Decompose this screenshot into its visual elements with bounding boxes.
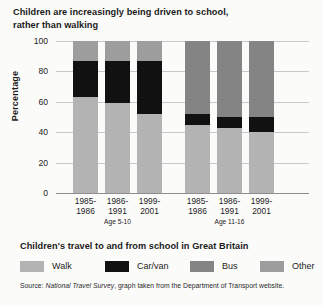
legend-label: Car/van xyxy=(137,261,169,271)
x-label-line-2: 2001 xyxy=(127,206,173,216)
x-axis-line xyxy=(56,193,309,194)
bar-segment-walk xyxy=(185,125,210,193)
plot-canvas: 020406080100 xyxy=(56,41,309,193)
chart-page: Children are increasingly being driven t… xyxy=(0,0,323,306)
bar-segment-car-van xyxy=(185,114,210,125)
page-title: Children are increasingly being driven t… xyxy=(13,6,313,31)
legend-swatch-bus xyxy=(190,261,214,272)
y-axis-tick-label: 40 xyxy=(8,128,48,137)
legend-item-walk[interactable]: Walk xyxy=(20,259,72,273)
legend-label: Walk xyxy=(52,261,72,271)
legend-heading: Children's travel to and from school in … xyxy=(20,241,248,251)
bar-segment-other xyxy=(137,41,162,61)
legend-swatch-other xyxy=(260,261,284,272)
x-axis-tick-label: 1999-2001 xyxy=(239,196,285,216)
legend-swatch-walk xyxy=(20,261,44,272)
bar-segment-car-van xyxy=(217,117,242,128)
bar-2 xyxy=(105,41,130,193)
bar-6 xyxy=(249,41,274,193)
bar-segment-other xyxy=(105,41,130,61)
bar-segment-walk xyxy=(73,97,98,193)
x-axis-tick-label: 1999-2001 xyxy=(127,196,173,216)
legend-item-other[interactable]: Other xyxy=(260,259,315,273)
bar-segment-car-van xyxy=(137,61,162,114)
bar-segment-walk xyxy=(105,103,130,193)
x-axis-labels: 1985-19861986-19911999-2001Age 5-101985-… xyxy=(56,196,309,236)
page-title-line-2: rather than walking xyxy=(13,19,313,32)
bar-4 xyxy=(185,41,210,193)
source-title: National Travel Survey xyxy=(45,282,114,289)
legend-label: Other xyxy=(292,261,315,271)
y-axis-tick-label: 100 xyxy=(8,37,48,46)
legend-item-bus[interactable]: Bus xyxy=(190,259,238,273)
x-label-line-1: 1999- xyxy=(127,196,173,206)
y-axis-tick-label: 80 xyxy=(8,67,48,76)
y-axis-tick-label: 60 xyxy=(8,98,48,107)
source-note: Source: National Travel Survey, graph ta… xyxy=(20,281,284,290)
bar-segment-bus xyxy=(185,41,210,114)
x-label-line-2: 2001 xyxy=(239,206,285,216)
bar-segment-car-van xyxy=(73,61,98,97)
source-prefix: Source: xyxy=(20,282,45,289)
bar-segment-car-van xyxy=(249,117,274,132)
bar-segment-other xyxy=(73,41,98,61)
bar-1 xyxy=(73,41,98,193)
plot-area: Percentage 020406080100 xyxy=(0,33,323,205)
group-label-age-5-10: Age 5-10 xyxy=(58,218,178,226)
legend-swatch-car-van xyxy=(105,261,129,272)
bar-3 xyxy=(137,41,162,193)
bar-5 xyxy=(217,41,242,193)
legend-item-car-van[interactable]: Car/van xyxy=(105,259,169,273)
bar-segment-walk xyxy=(249,132,274,193)
bar-segment-bus xyxy=(249,41,274,117)
y-axis-tick-label: 0 xyxy=(8,189,48,198)
bar-segment-walk xyxy=(137,114,162,193)
bar-segment-walk xyxy=(217,128,242,193)
x-label-line-1: 1999- xyxy=(239,196,285,206)
legend-label: Bus xyxy=(222,261,238,271)
chart-legend: WalkCar/vanBusOther xyxy=(20,259,310,273)
bar-segment-bus xyxy=(217,41,242,117)
y-axis-tick-label: 20 xyxy=(8,159,48,168)
page-title-line-1: Children are increasingly being driven t… xyxy=(13,6,313,19)
group-label-age-11-16: Age 11-16 xyxy=(170,218,290,226)
source-suffix: , graph taken from the Department of Tra… xyxy=(114,282,284,289)
bar-segment-car-van xyxy=(105,61,130,104)
